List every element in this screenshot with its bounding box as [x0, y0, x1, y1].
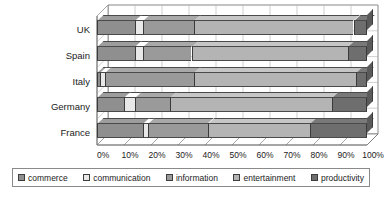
- legend-label: information: [176, 173, 218, 183]
- value-tick-label: 0%: [97, 150, 109, 160]
- legend-item-commerce[interactable]: commerce: [18, 173, 68, 183]
- bar-segment-germany-productivity: [332, 97, 367, 112]
- legend-item-communication[interactable]: communication: [83, 173, 150, 183]
- value-tick-label: 70%: [284, 150, 301, 160]
- bar-row: [97, 72, 367, 87]
- value-tick-label: 90%: [338, 150, 355, 160]
- legend-label: entertainment: [243, 173, 295, 183]
- chart-legend: commercecommunicationinformationentertai…: [12, 168, 370, 187]
- value-tick-label: 40%: [203, 150, 220, 160]
- bar-segment-germany-commerce: [97, 97, 124, 112]
- bar-segment-germany-entertainment: [170, 97, 332, 112]
- bar-segment-spain-entertainment: [192, 46, 349, 61]
- bar-row: [97, 20, 367, 35]
- bar-segment-italy-entertainment: [194, 72, 356, 87]
- bar-end-face: [367, 86, 373, 107]
- legend-label: productivity: [321, 173, 364, 183]
- legend-item-information[interactable]: information: [166, 173, 218, 183]
- value-tick-label: 10%: [122, 150, 139, 160]
- value-tick-label: 100%: [362, 150, 384, 160]
- bar-segment-spain-commerce: [97, 46, 135, 61]
- bar-segment-spain-communication: [135, 46, 143, 61]
- legend-item-productivity[interactable]: productivity: [311, 173, 364, 183]
- value-tick-label: 30%: [176, 150, 193, 160]
- value-tick-label: 80%: [311, 150, 328, 160]
- bar-end-face: [367, 61, 373, 82]
- bar-segment-italy-information: [105, 72, 194, 87]
- bar-row: [97, 97, 367, 112]
- bar-end-face: [367, 9, 373, 30]
- bar-segment-france-entertainment: [208, 123, 311, 138]
- value-tick-label: 20%: [149, 150, 166, 160]
- legend-swatch-icon: [83, 174, 90, 181]
- legend-label: communication: [93, 173, 150, 183]
- value-tick-label: 60%: [257, 150, 274, 160]
- bar-segment-italy-productivity: [356, 72, 367, 87]
- bar-row: [97, 123, 367, 138]
- bar-segment-germany-communication: [124, 97, 135, 112]
- legend-swatch-icon: [233, 174, 240, 181]
- bar-segment-uk-productivity: [354, 20, 368, 35]
- value-tick-label: 50%: [230, 150, 247, 160]
- legend-swatch-icon: [311, 174, 318, 181]
- bar-segment-spain-productivity: [348, 46, 367, 61]
- bar-segment-spain-information: [143, 46, 192, 61]
- bar-segment-uk-commerce: [97, 20, 135, 35]
- legend-item-entertainment[interactable]: entertainment: [233, 173, 295, 183]
- bar-segment-france-productivity: [310, 123, 367, 138]
- value-axis-labels: 0%10%20%30%40%50%60%70%80%90%100%: [0, 150, 383, 163]
- legend-swatch-icon: [166, 174, 173, 181]
- bar-row: [97, 46, 367, 61]
- legend-label: commerce: [28, 173, 68, 183]
- bar-segment-uk-information: [143, 20, 194, 35]
- bar-end-face: [367, 112, 373, 133]
- bar-segment-france-commerce: [97, 123, 143, 138]
- bar-segment-germany-information: [135, 97, 170, 112]
- bar-segment-france-information: [148, 123, 207, 138]
- bar-segment-uk-entertainment: [194, 20, 353, 35]
- bar-segment-uk-communication: [135, 20, 143, 35]
- bar-end-face: [367, 35, 373, 56]
- legend-swatch-icon: [18, 174, 25, 181]
